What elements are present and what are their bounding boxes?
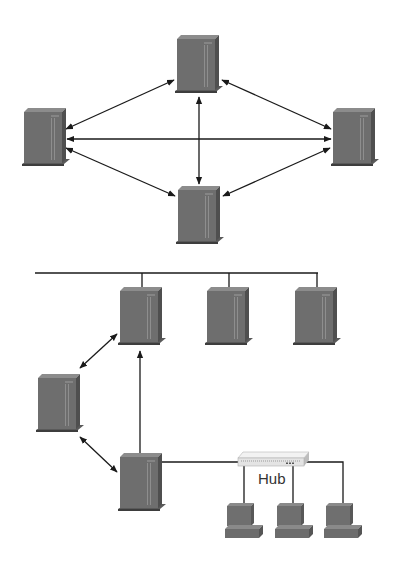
server-icon-right (331, 108, 379, 166)
workstation-icon-3 (324, 503, 362, 538)
link-middle-left-bus-1 (80, 334, 117, 368)
hub-icon (238, 452, 309, 466)
hybrid-network (35, 273, 362, 538)
link-right-bottom (223, 148, 330, 196)
server-icon-middle-left (36, 374, 84, 432)
server-icon-bottom (176, 186, 224, 244)
server-icon-bus-2 (205, 287, 253, 345)
link-top-right (222, 80, 331, 129)
mesh-links (66, 80, 331, 196)
network-diagram (0, 0, 395, 564)
server-icon-bus-1 (118, 287, 166, 345)
link-left-bottom (66, 148, 175, 196)
server-icon-top (175, 35, 223, 93)
hub-label: Hub (258, 470, 286, 487)
link-top-left (66, 80, 174, 129)
workstation-icon-2 (275, 503, 313, 538)
link-hub-pc-3 (306, 462, 343, 504)
server-icon-left (22, 108, 70, 166)
mesh-network (22, 35, 379, 244)
server-icon-bus-3 (293, 287, 341, 345)
link-middle-left-gateway (80, 437, 117, 472)
workstation-icon-1 (225, 503, 263, 538)
server-icon-gateway (118, 453, 166, 511)
